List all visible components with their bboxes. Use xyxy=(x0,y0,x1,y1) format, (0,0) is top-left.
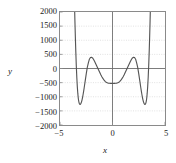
chart-figure: y x −2000−1500−1000−5000500100015002000 … xyxy=(0,0,176,163)
plot-area xyxy=(59,11,166,126)
data-curve xyxy=(60,12,165,125)
x-tick-label: −5 xyxy=(49,129,69,138)
x-tick-label: 0 xyxy=(103,129,123,138)
x-tick-label: 5 xyxy=(156,129,176,138)
